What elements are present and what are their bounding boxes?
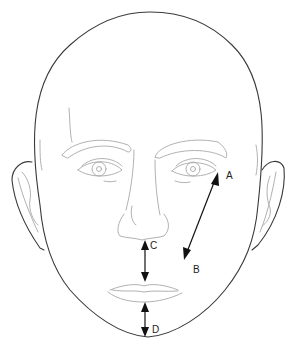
- right-eye: [172, 159, 216, 183]
- label-a: A: [226, 171, 233, 181]
- left-ear: [12, 162, 44, 250]
- arrow-d: [141, 302, 149, 337]
- temple-line-left: [69, 108, 72, 142]
- temple-line-left-lower: [40, 140, 42, 170]
- label-c: C: [150, 241, 157, 251]
- label-b: B: [193, 265, 200, 275]
- mouth: [108, 285, 182, 302]
- left-eye: [78, 159, 122, 182]
- left-eyebrow: [62, 140, 131, 158]
- right-ear: [252, 161, 284, 250]
- nose: [118, 150, 169, 240]
- temple-line-right: [256, 145, 258, 175]
- right-eyebrow: [155, 140, 227, 158]
- arrow-a-b: [183, 172, 219, 260]
- face-diagram: [0, 0, 293, 344]
- arrow-c: [141, 240, 149, 282]
- label-d: D: [152, 325, 159, 335]
